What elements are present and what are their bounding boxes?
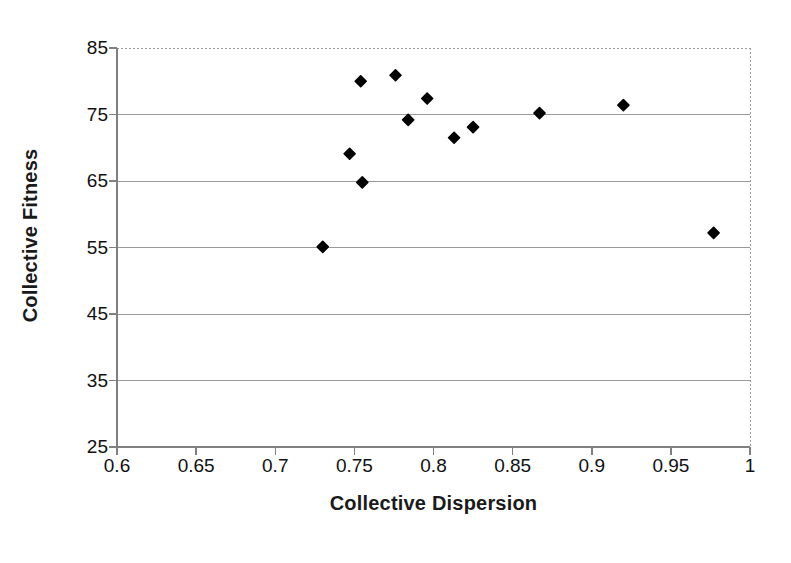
data-point-marker [534,108,545,119]
x-tick-label-0.7: 0.7 [262,455,288,477]
x-axis-tick-marks [117,447,750,455]
x-axis-title: Collective Dispersion [117,492,750,515]
data-point-marker [618,100,629,111]
y-tick-label-85: 85 [87,37,108,59]
x-tick-label-0.9: 0.9 [579,455,605,477]
data-point-marker [403,114,414,125]
data-point-marker [390,70,401,81]
y-tick-label-35: 35 [87,370,108,392]
y-tick-label-75: 75 [87,104,108,126]
x-tick-label-0.8: 0.8 [420,455,446,477]
data-point-marker [708,227,719,238]
x-tick-label-0.95: 0.95 [652,455,689,477]
data-point-marker [317,241,328,252]
data-point-marker [422,93,433,104]
x-tick-label-0.85: 0.85 [494,455,531,477]
data-point-marker [357,177,368,188]
x-axis-tick-labels: 0.60.650.70.750.80.850.90.951 [117,455,750,485]
gridlines [117,48,750,447]
y-axis-title: Collective Fitness [20,148,43,322]
plot-svg [117,48,750,447]
data-point-marker [449,132,460,143]
y-axis-tick-labels: 25354555657585 [58,48,108,447]
scatter-chart-figure: Collective Fitness 25354555657585 0.60.6… [0,0,791,563]
data-point-marker [468,122,479,133]
x-tick-label-1: 1 [745,455,756,477]
y-axis-title-container: Collective Fitness [8,0,54,470]
y-axis-tick-marks [109,48,117,447]
y-tick-label-45: 45 [87,303,108,325]
x-axis-title-container: Collective Dispersion [117,492,750,515]
y-tick-label-55: 55 [87,237,108,259]
x-tick-label-0.6: 0.6 [104,455,130,477]
x-tick-label-0.65: 0.65 [178,455,215,477]
data-point-marker [355,76,366,87]
x-tick-label-0.75: 0.75 [336,455,373,477]
data-point-marker [344,148,355,159]
plot-area [117,48,750,447]
data-point-markers [317,70,719,253]
y-tick-label-65: 65 [87,170,108,192]
